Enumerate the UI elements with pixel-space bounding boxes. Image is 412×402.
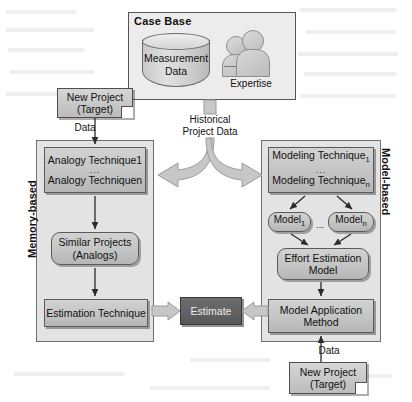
arrow-model-last-to-effort <box>334 234 351 245</box>
arrow-modeling-to-model-last <box>337 196 352 209</box>
historical-data-arrow-left <box>158 138 214 187</box>
historical-data-arrow-right <box>206 138 262 187</box>
arrow-modeling-to-model-first <box>290 196 305 209</box>
arrow-layer <box>0 0 412 402</box>
arrow-application-to-estimate <box>242 302 268 320</box>
arrow-model-first-to-effort <box>291 234 308 245</box>
arrow-estimation-to-estimate <box>152 302 180 320</box>
historical-data-stem <box>204 100 216 114</box>
effort-estimation-diagram: Case Base Measurement Data Expertise New… <box>0 0 412 402</box>
